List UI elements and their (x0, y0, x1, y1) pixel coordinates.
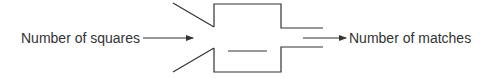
funnel-top-line (173, 3, 214, 27)
function-machine (173, 3, 323, 72)
input-label: Number of squares (21, 30, 140, 46)
funnel-bottom-line (173, 48, 214, 72)
output-label: Number of matches (349, 30, 471, 46)
box-top-outline (214, 4, 323, 28)
